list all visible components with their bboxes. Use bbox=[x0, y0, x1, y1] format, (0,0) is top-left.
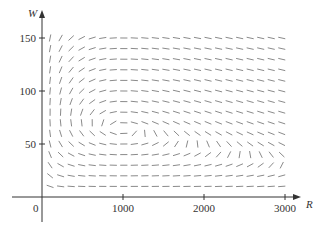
slope-segment bbox=[268, 111, 275, 113]
slope-segment bbox=[152, 154, 159, 155]
slope-segment bbox=[47, 185, 54, 187]
slope-segment bbox=[247, 142, 253, 146]
slope-segment bbox=[194, 58, 201, 59]
slope-segment bbox=[90, 109, 94, 115]
slope-segment bbox=[247, 69, 254, 71]
slope-segment bbox=[152, 121, 159, 124]
slope-segment bbox=[194, 48, 201, 49]
slope-segment bbox=[173, 111, 180, 113]
slope-segment bbox=[80, 109, 82, 116]
slope-segment bbox=[278, 186, 285, 187]
slope-segment bbox=[257, 175, 264, 176]
slope-segment bbox=[79, 88, 84, 93]
slope-segment bbox=[183, 176, 190, 177]
slope-segment bbox=[247, 48, 254, 50]
slope-segment bbox=[162, 59, 169, 60]
slope-segment bbox=[194, 80, 201, 82]
slope-segment bbox=[99, 154, 106, 155]
slope-segment bbox=[227, 151, 230, 157]
origin-label: 0 bbox=[33, 202, 39, 214]
slope-segment bbox=[257, 80, 264, 82]
slope-segment bbox=[141, 101, 148, 102]
slope-segment bbox=[89, 99, 95, 103]
slope-segment bbox=[268, 80, 275, 82]
slope-segment bbox=[257, 111, 264, 113]
slope-segment bbox=[184, 131, 190, 136]
slope-segment bbox=[89, 79, 96, 82]
slope-segment bbox=[278, 37, 285, 39]
slope-segment bbox=[173, 80, 180, 81]
slope-segment bbox=[152, 165, 159, 166]
slope-segment bbox=[110, 80, 117, 81]
slope-segment bbox=[69, 77, 73, 83]
slope-segment bbox=[69, 88, 72, 94]
slope-segment bbox=[278, 48, 285, 50]
slope-segment bbox=[247, 175, 254, 176]
slope-segment bbox=[164, 131, 169, 137]
slope-segment bbox=[79, 57, 85, 61]
slope-segment bbox=[173, 101, 180, 103]
slope-segment bbox=[58, 152, 63, 157]
slope-segment bbox=[215, 101, 222, 103]
slope-segment bbox=[60, 98, 61, 105]
slope-segment bbox=[226, 122, 233, 125]
slope-segment bbox=[236, 175, 243, 176]
slope-segment bbox=[59, 56, 62, 63]
slope-segment bbox=[132, 131, 137, 136]
slope-segment bbox=[162, 69, 169, 70]
slope-segment bbox=[59, 77, 61, 84]
slope-segment bbox=[226, 69, 233, 71]
slope-segment bbox=[131, 101, 138, 102]
slope-segment bbox=[48, 162, 52, 168]
slope-segment bbox=[152, 111, 159, 113]
slope-segment bbox=[162, 154, 169, 156]
slope-segment bbox=[236, 58, 243, 60]
slope-segment bbox=[257, 101, 264, 103]
slope-segment bbox=[60, 119, 61, 126]
slope-segment bbox=[247, 80, 254, 82]
slope-segment bbox=[268, 90, 275, 92]
slope-segment bbox=[110, 111, 117, 112]
slope-segment bbox=[257, 122, 264, 124]
slope-segment bbox=[216, 152, 221, 157]
slope-segment bbox=[215, 80, 222, 82]
slope-segment bbox=[173, 48, 180, 49]
slope-segment bbox=[205, 111, 212, 113]
slope-segment bbox=[226, 101, 233, 103]
slope-segment bbox=[69, 57, 74, 62]
slope-segment bbox=[110, 70, 117, 71]
slope-segment bbox=[71, 119, 72, 126]
slope-segment bbox=[268, 132, 275, 135]
slope-segment bbox=[215, 175, 222, 176]
slope-segment bbox=[110, 144, 117, 145]
slope-segment bbox=[79, 36, 85, 39]
slope-segment bbox=[141, 59, 148, 60]
slope-segment bbox=[68, 164, 75, 166]
slope-segment bbox=[141, 69, 148, 70]
slope-segment bbox=[68, 153, 74, 156]
x-axis-label: R bbox=[305, 198, 313, 210]
slope-segment bbox=[59, 66, 62, 73]
slope-segment bbox=[110, 101, 117, 102]
slope-segment bbox=[247, 122, 254, 124]
slope-segment bbox=[279, 152, 284, 157]
slope-segment bbox=[99, 80, 106, 82]
slope-segment bbox=[145, 130, 146, 137]
slope-segment bbox=[89, 165, 96, 166]
slope-segment bbox=[268, 48, 275, 50]
slope-segment bbox=[215, 37, 222, 38]
slope-segment bbox=[268, 101, 275, 103]
slope-segment bbox=[183, 59, 190, 60]
slope-segment bbox=[173, 69, 180, 70]
slope-segment bbox=[49, 45, 50, 52]
slope-segment bbox=[152, 48, 159, 49]
slope-segment bbox=[152, 90, 159, 91]
slope-segment bbox=[205, 69, 212, 71]
slope-segment bbox=[81, 119, 82, 126]
slope-segment bbox=[173, 154, 180, 156]
slope-segment bbox=[183, 165, 190, 166]
slope-segment bbox=[226, 175, 233, 176]
slope-segment bbox=[279, 142, 285, 145]
slope-segment bbox=[173, 121, 180, 124]
slope-segment bbox=[278, 101, 285, 103]
